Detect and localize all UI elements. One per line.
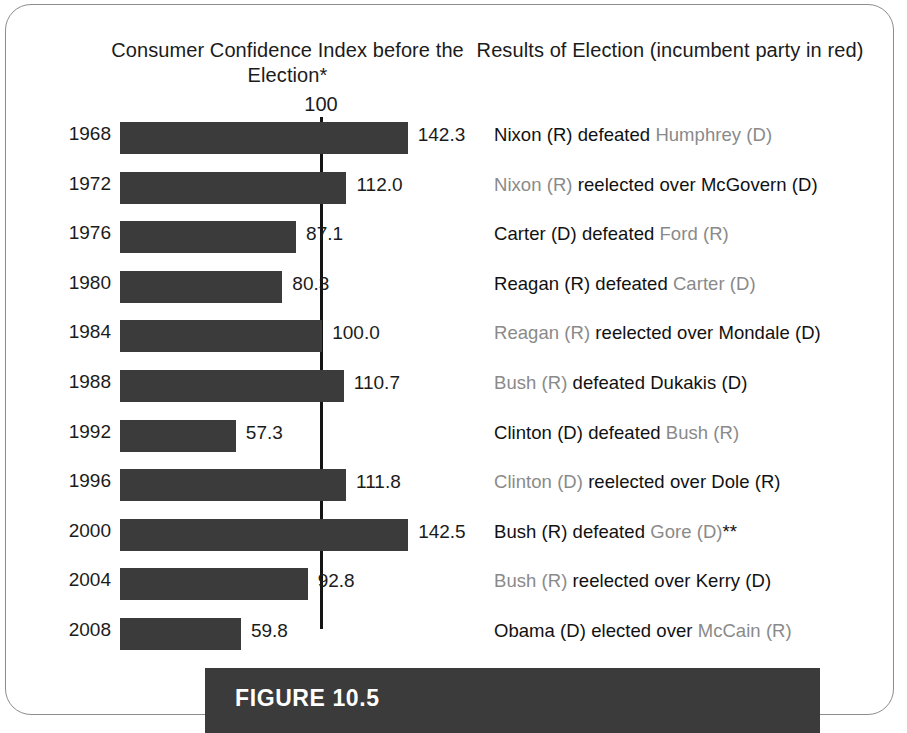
year-label: 2000 (45, 520, 111, 542)
bar-value-label: 59.8 (251, 620, 288, 642)
chart-row: 200859.8Obama (D) elected over McCain (R… (0, 612, 907, 662)
bar (120, 172, 346, 204)
incumbent-candidate: Gore (D) (650, 521, 722, 542)
figure-caption-bar: FIGURE 10.5 (205, 668, 820, 733)
result-suffix: reelected over Kerry (D) (567, 570, 771, 591)
result-suffix: ** (723, 521, 738, 542)
election-result-text: Reagan (R) defeated Carter (D) (494, 273, 756, 295)
bar-value-label: 111.8 (356, 471, 401, 493)
bar-chart-plot: 1968142.3Nixon (R) defeated Humphrey (D)… (0, 0, 907, 660)
figure-area: Consumer Confidence Index before the Ele… (0, 0, 907, 733)
bar-value-label: 142.5 (418, 521, 466, 543)
chart-row: 2000142.5Bush (R) defeated Gore (D)** (0, 513, 907, 563)
year-label: 1996 (45, 470, 111, 492)
election-result-text: Carter (D) defeated Ford (R) (494, 223, 729, 245)
incumbent-candidate: Nixon (R) (494, 174, 573, 195)
year-label: 1968 (45, 123, 111, 145)
chart-row: 199257.3Clinton (D) defeated Bush (R) (0, 414, 907, 464)
election-result-text: Bush (R) reelected over Kerry (D) (494, 570, 771, 592)
result-prefix: Obama (D) elected over (494, 620, 698, 641)
bar-value-label: 100.0 (332, 322, 380, 344)
bar-value-label: 142.3 (418, 124, 466, 146)
bar (120, 271, 282, 303)
incumbent-candidate: Carter (D) (673, 273, 756, 294)
result-prefix: Nixon (R) defeated (494, 124, 655, 145)
bar-value-label: 80.3 (292, 273, 329, 295)
incumbent-candidate: Ford (R) (660, 223, 729, 244)
result-suffix: defeated Dukakis (D) (567, 372, 747, 393)
chart-row: 1984100.0Reagan (R) reelected over Monda… (0, 314, 907, 364)
chart-row: 1996111.8Clinton (D) reelected over Dole… (0, 463, 907, 513)
election-result-text: Obama (D) elected over McCain (R) (494, 620, 792, 642)
bar (120, 370, 344, 402)
election-result-text: Bush (R) defeated Gore (D)** (494, 521, 737, 543)
result-prefix: Reagan (R) defeated (494, 273, 673, 294)
year-label: 1988 (45, 371, 111, 393)
figure-caption-text: FIGURE 10.5 (235, 685, 380, 712)
incumbent-candidate: Bush (R) (494, 570, 567, 591)
year-label: 1992 (45, 421, 111, 443)
year-label: 2008 (45, 619, 111, 641)
election-result-text: Nixon (R) defeated Humphrey (D) (494, 124, 772, 146)
bar (120, 618, 241, 650)
bar (120, 221, 296, 253)
year-label: 1976 (45, 222, 111, 244)
result-prefix: Bush (R) defeated (494, 521, 650, 542)
incumbent-candidate: Clinton (D) (494, 471, 583, 492)
election-result-text: Bush (R) defeated Dukakis (D) (494, 372, 747, 394)
election-result-text: Clinton (D) defeated Bush (R) (494, 422, 739, 444)
result-prefix: Carter (D) defeated (494, 223, 660, 244)
chart-row: 198080.3Reagan (R) defeated Carter (D) (0, 265, 907, 315)
year-label: 1980 (45, 272, 111, 294)
result-prefix: Clinton (D) defeated (494, 422, 666, 443)
election-result-text: Reagan (R) reelected over Mondale (D) (494, 322, 821, 344)
bar (120, 320, 322, 352)
election-result-text: Clinton (D) reelected over Dole (R) (494, 471, 781, 493)
bar (120, 519, 408, 551)
year-label: 1972 (45, 173, 111, 195)
incumbent-candidate: Humphrey (D) (655, 124, 772, 145)
bar-value-label: 110.7 (354, 372, 400, 394)
year-label: 2004 (45, 569, 111, 591)
result-suffix: reelected over McGovern (D) (573, 174, 818, 195)
chart-row: 197687.1Carter (D) defeated Ford (R) (0, 215, 907, 265)
chart-row: 200492.8Bush (R) reelected over Kerry (D… (0, 562, 907, 612)
chart-row: 1968142.3Nixon (R) defeated Humphrey (D) (0, 116, 907, 166)
bar-value-label: 57.3 (246, 422, 283, 444)
bar-value-label: 92.8 (318, 570, 355, 592)
chart-row: 1988110.7Bush (R) defeated Dukakis (D) (0, 364, 907, 414)
result-suffix: reelected over Mondale (D) (590, 322, 821, 343)
bar-value-label: 112.0 (356, 174, 402, 196)
chart-row: 1972112.0Nixon (R) reelected over McGove… (0, 166, 907, 216)
result-suffix: reelected over Dole (R) (583, 471, 781, 492)
bar (120, 420, 236, 452)
bar-value-label: 87.1 (306, 223, 343, 245)
bar (120, 122, 408, 154)
incumbent-candidate: Bush (R) (666, 422, 739, 443)
bar (120, 469, 346, 501)
incumbent-candidate: McCain (R) (698, 620, 792, 641)
bar (120, 568, 308, 600)
election-result-text: Nixon (R) reelected over McGovern (D) (494, 174, 818, 196)
year-label: 1984 (45, 321, 111, 343)
incumbent-candidate: Reagan (R) (494, 322, 590, 343)
incumbent-candidate: Bush (R) (494, 372, 567, 393)
